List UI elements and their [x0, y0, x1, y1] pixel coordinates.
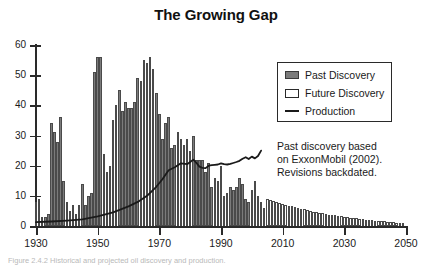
legend-item-production: Production [285, 103, 355, 119]
chart-annotation: Past discovery based on ExxonMobil (2002… [277, 140, 427, 179]
x-tick-2050 [406, 226, 408, 235]
chart-figure: The Growing Gap 0102030405060 1930195019… [0, 0, 432, 268]
line-segment-icon [285, 110, 299, 112]
x-tick-1950 [98, 226, 100, 235]
x-tick-label-1930: 1930 [24, 238, 47, 249]
x-tick-1930 [36, 226, 38, 235]
x-tick-label-2030: 2030 [333, 238, 356, 249]
y-tick-label-30: 30 [0, 131, 26, 141]
figure-caption: Figure 2.4.2 Historical and projected oi… [8, 256, 428, 265]
legend-label-future-discovery: Future Discovery [305, 88, 384, 99]
legend-item-future-discovery: Future Discovery [285, 85, 384, 101]
x-tick-label-1990: 1990 [209, 238, 232, 249]
y-tick-label-40: 40 [0, 100, 26, 110]
annotation-line-3: Revisions backdated. [277, 166, 427, 179]
page-title: The Growing Gap [0, 6, 432, 23]
x-tick-1990 [221, 226, 223, 235]
legend-item-past-discovery: Past Discovery [285, 67, 375, 83]
chart-legend: Past Discovery Future Discovery Producti… [277, 62, 392, 122]
y-tick-label-0: 0 [0, 221, 26, 231]
y-tick-label-20: 20 [0, 161, 26, 171]
hollow-rect-icon [285, 89, 299, 98]
annotation-line-1: Past discovery based [277, 140, 427, 153]
x-tick-label-1950: 1950 [86, 238, 109, 249]
legend-label-production: Production [305, 106, 355, 117]
legend-label-past-discovery: Past Discovery [305, 70, 375, 81]
x-tick-1970 [159, 226, 161, 235]
filled-rect-icon [285, 71, 299, 79]
x-tick-2030 [344, 226, 346, 235]
x-tick-label-2010: 2010 [271, 238, 294, 249]
x-tick-label-2050: 2050 [394, 238, 417, 249]
annotation-line-2: on ExxonMobil (2002). [277, 153, 427, 166]
x-tick-label-1970: 1970 [148, 238, 171, 249]
y-tick-label-50: 50 [0, 70, 26, 80]
y-tick-label-60: 60 [0, 40, 26, 50]
x-tick-2010 [283, 226, 285, 235]
y-tick-label-10: 10 [0, 191, 26, 201]
